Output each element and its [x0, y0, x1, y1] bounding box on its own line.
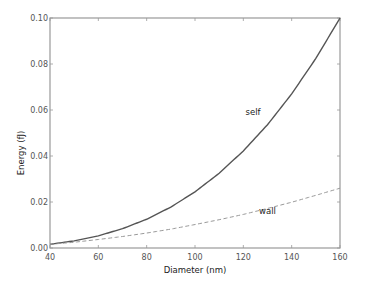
energy-vs-diameter-chart: 4060801001201401600.000.020.040.060.080.… [0, 0, 365, 284]
x-tick-label: 100 [187, 253, 202, 262]
y-tick-label: 0.10 [30, 14, 48, 23]
y-tick-label: 0.02 [30, 198, 48, 207]
series-line-self [50, 18, 340, 244]
annotation-self: self [245, 107, 261, 117]
x-axis-label: Diameter (nm) [164, 265, 227, 275]
y-tick-label: 0.04 [30, 152, 48, 161]
x-tick-label: 40 [45, 253, 55, 262]
y-tick-label: 0.00 [30, 244, 48, 253]
y-tick-label: 0.06 [30, 106, 48, 115]
annotation-wall: wall [259, 206, 276, 216]
x-tick-label: 140 [284, 253, 299, 262]
x-tick-label: 80 [142, 253, 152, 262]
x-tick-label: 160 [332, 253, 347, 262]
plot-frame [50, 18, 340, 248]
y-axis-label: Energy (fJ) [16, 131, 26, 176]
series-line-wall [50, 188, 340, 244]
y-tick-label: 0.08 [30, 60, 48, 69]
x-tick-label: 60 [93, 253, 103, 262]
x-tick-label: 120 [236, 253, 251, 262]
